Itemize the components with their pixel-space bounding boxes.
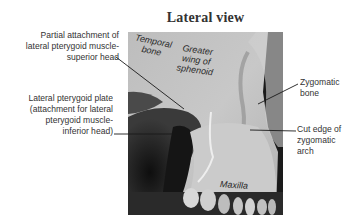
lateral-pterygoid-plate-callout: Lateral pterygoid plate (attachment for … <box>5 92 113 136</box>
superior-head-callout: Partial attachment of lateral pterygoid … <box>11 29 119 62</box>
maxilla-label: Maxilla <box>220 179 249 191</box>
cut-edge-zygomatic-arch-callout: Cut edge of zygomatic arch <box>297 123 351 156</box>
skull-lateral-photo: Temporal bone Greater wing of sphenoid M… <box>128 32 283 215</box>
greater-wing-sphenoid-label: Greater wing of sphenoid <box>176 43 216 78</box>
figure-title: Lateral view <box>128 10 283 26</box>
zygomatic-bone-callout: Zygomatic bone <box>300 76 354 98</box>
